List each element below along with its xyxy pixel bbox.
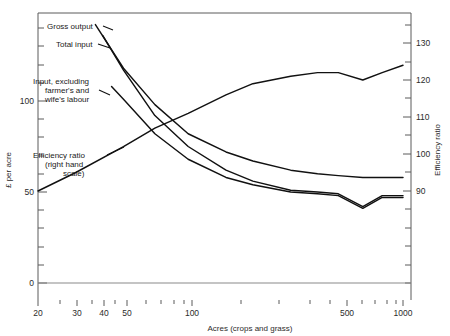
bottom-tick-label-50: 50	[122, 308, 132, 318]
bottom-tick-label-20: 20	[33, 308, 43, 318]
bottom-tick-label-100: 100	[185, 308, 199, 318]
bottom-tick-label-40: 40	[99, 308, 109, 318]
label-efficiency-line2: (right hand	[45, 160, 83, 169]
right-axis-title: Efficiency ratio	[433, 124, 442, 176]
label-efficiency-line1: Efficiency ratio	[33, 151, 85, 160]
right-tick-label-100: 100	[416, 149, 430, 159]
label-total-input: Total input	[56, 40, 93, 49]
label-gross-output: Gross output	[47, 22, 94, 31]
bottom-axis-title: Acres (crops and grass)	[208, 324, 293, 333]
left-axis-title: £ per acre	[4, 151, 13, 188]
chart-figure: 100 50 0 £ per acre 130 120 110 100 90 E…	[0, 0, 450, 336]
right-tick-label-130: 130	[416, 38, 430, 48]
right-tick-label-110: 110	[416, 112, 430, 122]
right-tick-label-90: 90	[416, 186, 426, 196]
left-tick-label-50: 50	[25, 187, 35, 197]
chart-canvas: 100 50 0 £ per acre 130 120 110 100 90 E…	[0, 0, 450, 336]
label-efficiency-line3: scale)	[63, 169, 85, 178]
left-tick-label-0: 0	[29, 278, 34, 288]
label-input-excl-line3: wife's labour	[44, 95, 90, 104]
label-input-excl-line1: Input, excluding	[33, 77, 89, 86]
bottom-tick-label-1000: 1000	[394, 308, 413, 318]
right-tick-label-120: 120	[416, 75, 430, 85]
bottom-tick-label-500: 500	[340, 308, 354, 318]
left-tick-label-100: 100	[20, 96, 34, 106]
bottom-tick-label-30: 30	[72, 308, 82, 318]
label-input-excl-line2: farmer's and	[45, 86, 89, 95]
